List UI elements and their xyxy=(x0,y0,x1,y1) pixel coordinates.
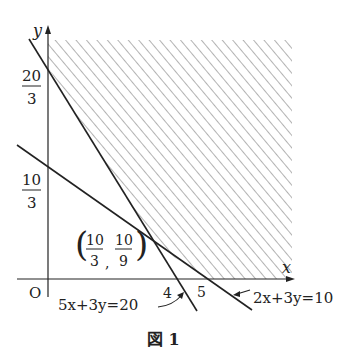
linear-inequality-diagram: y x O 20 3 10 3 4 5 ( 10 3 , 10 9 ) 5x+3… xyxy=(0,0,359,359)
svg-text:9: 9 xyxy=(119,253,128,269)
y-tick-10-3: 10 3 xyxy=(22,171,41,212)
arrowhead-icon xyxy=(233,291,240,297)
svg-text:3: 3 xyxy=(90,253,99,269)
svg-text:10: 10 xyxy=(86,232,104,248)
svg-text:,: , xyxy=(105,255,109,271)
arrowhead-icon xyxy=(177,292,184,299)
y-axis-label: y xyxy=(32,21,43,40)
x-tick-5: 5 xyxy=(197,284,206,300)
svg-text:20: 20 xyxy=(22,67,41,85)
svg-text:10: 10 xyxy=(22,171,41,189)
y-axis-arrow-icon xyxy=(45,25,51,34)
svg-text:): ) xyxy=(135,224,148,264)
equation-label-5x-3y-20: 5x+3y=20 xyxy=(58,296,138,314)
origin-label: O xyxy=(29,284,41,302)
svg-text:3: 3 xyxy=(27,90,37,108)
y-tick-20-3: 20 3 xyxy=(22,67,41,108)
svg-text:10: 10 xyxy=(115,232,133,248)
equation-label-2x-3y-10: 2x+3y=10 xyxy=(253,289,333,307)
x-tick-4: 4 xyxy=(163,285,172,301)
intersection-label: ( 10 3 , 10 9 ) xyxy=(75,224,148,271)
figure-caption: 図 1 xyxy=(147,330,180,349)
x-axis-label: x xyxy=(282,258,291,277)
svg-text:3: 3 xyxy=(27,194,37,212)
